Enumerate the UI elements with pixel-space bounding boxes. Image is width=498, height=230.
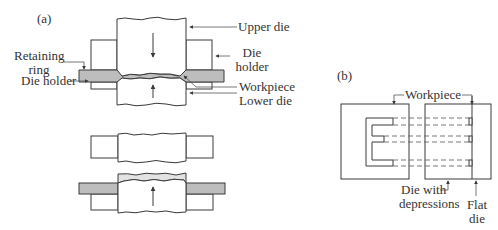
upper-die bbox=[117, 17, 186, 76]
callout-flat-die: Flat die bbox=[464, 198, 490, 226]
die-with-depressions bbox=[425, 104, 491, 179]
upper-die-holder-right bbox=[186, 40, 212, 70]
lower-die-holder-right-open bbox=[186, 194, 213, 210]
upper-die-open bbox=[118, 133, 186, 163]
workpiece-ring-right bbox=[186, 183, 225, 194]
leader-retaining-ring bbox=[64, 62, 84, 69]
lower-die-holder-right bbox=[186, 82, 212, 89]
workpiece-ring-left bbox=[79, 183, 118, 194]
leader-workpiece-b-right bbox=[462, 95, 472, 104]
upper-die-holder-left-open bbox=[91, 136, 118, 158]
lower-die bbox=[117, 77, 186, 106]
callout-die-with-depressions: Die with depressions bbox=[401, 183, 460, 211]
panel-a-bottom-assembly bbox=[79, 133, 225, 213]
callout-die-holder-left: Die holder bbox=[21, 74, 76, 88]
upper-die-holder-right-open bbox=[186, 136, 213, 158]
depression-2 bbox=[469, 136, 472, 142]
callout-workpiece-b: Workpiece bbox=[405, 88, 461, 102]
leader-workpiece-b-left bbox=[394, 95, 404, 104]
upper-die-holder-left bbox=[91, 40, 117, 70]
depression-1 bbox=[469, 118, 472, 125]
callout-workpiece-a: Workpiece bbox=[239, 80, 295, 94]
panel-a-top-assembly bbox=[79, 17, 224, 106]
lower-die-holder-left-open bbox=[91, 194, 118, 210]
callout-upper-die: Upper die bbox=[238, 20, 290, 34]
depression-3 bbox=[469, 160, 472, 166]
callout-lower-die: Lower die bbox=[239, 94, 292, 108]
panel-a-label: (a) bbox=[37, 12, 51, 26]
lower-die-holder-left bbox=[91, 82, 117, 89]
callout-die-holder-right: Die holder bbox=[232, 46, 272, 74]
panel-b-label: (b) bbox=[337, 69, 352, 83]
lower-die-open bbox=[118, 179, 186, 213]
panel-b-dies bbox=[341, 96, 491, 179]
